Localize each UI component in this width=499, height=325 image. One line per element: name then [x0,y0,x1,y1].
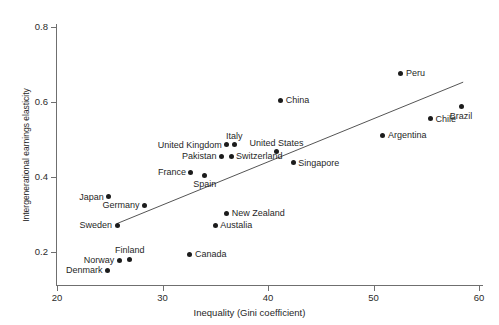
data-point[interactable] [219,154,224,159]
data-points-layer: PeruBrazilChileArgentinaChinaItalyUnited… [0,0,499,325]
data-point[interactable] [428,116,433,121]
data-point[interactable] [398,71,403,76]
data-point[interactable] [291,160,296,165]
data-point-label: Argentina [388,130,427,140]
data-point[interactable] [187,252,192,257]
data-point[interactable] [188,170,193,175]
data-point[interactable] [106,194,111,199]
data-point[interactable] [278,98,283,103]
data-point[interactable] [224,211,229,216]
data-point-label: Finland [115,245,145,255]
data-point-label: Austalia [220,220,252,230]
data-point-label: United States [249,138,303,148]
data-point-label: Norway [84,255,115,265]
data-point[interactable] [202,173,207,178]
data-point[interactable] [232,142,237,147]
data-point-label: China [286,95,310,105]
data-point-label: Pakistan [182,151,217,161]
data-point-label: Sweden [80,220,113,230]
data-point-label: France [158,167,186,177]
data-point-label: Germany [103,200,140,210]
data-point[interactable] [380,133,385,138]
data-point-label: Japan [79,192,104,202]
data-point-label: Peru [406,68,425,78]
data-point[interactable] [117,258,122,263]
data-point-label: Spain [193,179,216,189]
data-point-label: Canada [195,249,227,259]
data-point[interactable] [459,104,464,109]
data-point-label: Italy [226,131,243,141]
data-point-label: Singapore [298,158,339,168]
scatter-chart-figure: 0.20.40.60.8 2030405060 Intergenerationa… [0,0,499,325]
data-point[interactable] [105,268,110,273]
data-point[interactable] [142,203,147,208]
data-point[interactable] [229,154,234,159]
data-point-label: New Zealand [232,208,285,218]
data-point[interactable] [224,142,229,147]
data-point-label: United Kingdom [158,140,222,150]
data-point-label: Chile [435,114,456,124]
data-point[interactable] [213,223,218,228]
data-point[interactable] [115,223,120,228]
data-point[interactable] [127,257,132,262]
data-point-label: Denmark [66,265,103,275]
